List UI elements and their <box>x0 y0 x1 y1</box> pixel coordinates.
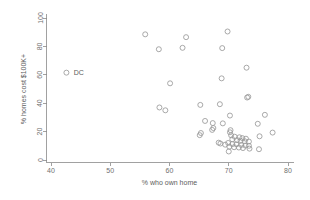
axes: 4050607080020406080100 <box>37 12 295 174</box>
data-point <box>262 112 267 117</box>
data-point <box>270 130 275 135</box>
data-point <box>255 121 260 126</box>
x-tick-label: 60 <box>166 167 174 174</box>
y-axis-title: % homes cost $100K+ <box>20 54 27 124</box>
data-point <box>184 35 189 40</box>
y-tick-label: 80 <box>37 42 44 50</box>
y-tick-label: 0 <box>37 158 44 162</box>
y-tick-label: 60 <box>37 71 44 79</box>
data-point <box>244 65 249 70</box>
data-point <box>227 113 232 118</box>
data-point <box>156 47 161 52</box>
data-point <box>226 149 231 154</box>
data-point <box>257 134 262 139</box>
data-point <box>217 102 222 107</box>
plot-canvas: 4050607080020406080100 DC % who own home… <box>0 0 310 200</box>
x-axis-title: % who own home <box>142 179 197 186</box>
data-point <box>157 105 162 110</box>
x-tick-label: 70 <box>225 167 233 174</box>
data-point <box>225 29 230 34</box>
data-point <box>168 81 173 86</box>
data-point <box>210 121 215 126</box>
y-tick-label: 40 <box>37 99 44 107</box>
data-point <box>220 46 225 51</box>
y-tick-label: 100 <box>37 12 44 24</box>
data-point <box>143 32 148 37</box>
data-point <box>163 108 168 113</box>
data-point <box>180 45 185 50</box>
scatter-plot-figure: 4050607080020406080100 DC % who own home… <box>0 0 310 200</box>
data-point <box>198 102 203 107</box>
x-tick-label: 80 <box>284 167 292 174</box>
y-tick-label: 20 <box>37 128 44 136</box>
x-tick-label: 40 <box>47 167 55 174</box>
data-point <box>256 147 261 152</box>
annotation-label-dc: DC <box>74 69 84 76</box>
data-point <box>203 118 208 123</box>
point-annotations: DC <box>74 69 84 76</box>
data-point <box>64 70 69 75</box>
data-point <box>219 76 224 81</box>
x-tick-label: 50 <box>106 167 114 174</box>
data-point <box>220 121 225 126</box>
data-point <box>218 141 223 146</box>
data-points <box>64 29 275 154</box>
